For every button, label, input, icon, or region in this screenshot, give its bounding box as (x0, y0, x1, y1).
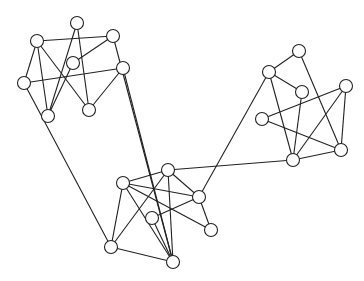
node-D (67, 57, 80, 70)
network-graph (0, 0, 364, 281)
edge-K-Q (199, 72, 269, 197)
edge-F-E (24, 68, 123, 83)
edge-N-O (111, 247, 173, 262)
node-T (256, 113, 269, 126)
node-G (42, 110, 55, 123)
edge-B-C (37, 36, 113, 41)
edge-Q-V (269, 72, 293, 160)
node-F (18, 77, 31, 90)
edge-I-N (111, 183, 123, 247)
node-E (117, 62, 130, 75)
node-O (167, 256, 180, 269)
edge-D-G (48, 63, 73, 116)
node-A (71, 17, 84, 30)
node-Q (263, 66, 276, 79)
node-L (146, 212, 159, 225)
node-S (340, 80, 353, 93)
node-K (193, 191, 206, 204)
edge-F-N (24, 83, 111, 247)
edge-P-U (299, 51, 341, 150)
edge-L-O (152, 218, 173, 262)
edge-S-U (341, 86, 346, 150)
edge-E-H (89, 68, 123, 110)
edge-I-K (123, 183, 199, 197)
node-I (117, 177, 130, 190)
node-B (31, 35, 44, 48)
node-V (287, 154, 300, 167)
node-P (293, 45, 306, 58)
edge-J-O (168, 170, 173, 262)
node-J (162, 164, 175, 177)
node-N (105, 241, 118, 254)
node-R (296, 86, 309, 99)
edge-J-V (168, 160, 293, 170)
edge-T-U (262, 119, 341, 150)
edge-B-G (37, 41, 48, 116)
node-U (335, 144, 348, 157)
edge-I-M (123, 183, 211, 230)
edge-U-V (293, 150, 341, 160)
node-M (205, 224, 218, 237)
node-C (107, 30, 120, 43)
node-H (83, 104, 96, 117)
